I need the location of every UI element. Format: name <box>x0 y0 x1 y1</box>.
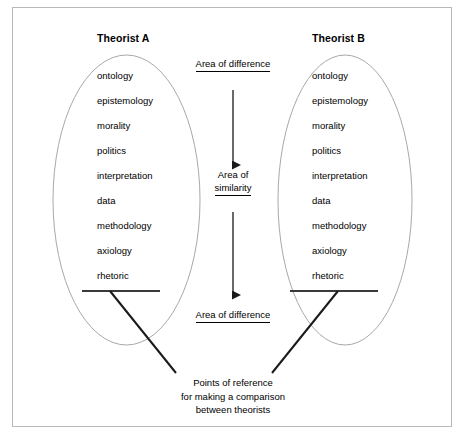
area-of-similarity-line1: Area of <box>193 168 273 181</box>
theorist-a-title: Theorist A <box>97 32 150 44</box>
concept-item: axiology <box>312 238 368 263</box>
concept-item: interpretation <box>312 163 368 188</box>
concept-item: politics <box>312 138 368 163</box>
concept-item: epistemology <box>312 88 368 113</box>
concept-item: rhetoric <box>97 263 153 288</box>
caption-line-3: between theorists <box>143 403 323 417</box>
area-of-difference-bottom-label: Area of difference <box>168 308 298 323</box>
concept-item: data <box>312 188 368 213</box>
area-of-similarity-label: Area of similarity <box>193 168 273 196</box>
concept-item: rhetoric <box>312 263 368 288</box>
points-of-reference-caption: Points of reference for making a compari… <box>143 376 323 417</box>
diagram-canvas: Theorist A Theorist B ontology epistemol… <box>0 0 466 439</box>
area-of-difference-top-text: Area of difference <box>196 57 271 72</box>
area-of-difference-bottom-text: Area of difference <box>196 308 271 323</box>
area-of-similarity-line2: similarity <box>215 181 252 196</box>
caption-line-2: for making a comparison <box>143 390 323 404</box>
concept-item: axiology <box>97 238 153 263</box>
theorist-a-concept-list: ontology epistemology morality politics … <box>97 63 153 288</box>
concept-item: methodology <box>312 213 368 238</box>
concept-item: politics <box>97 138 153 163</box>
caption-line-1: Points of reference <box>143 376 323 390</box>
concept-item: methodology <box>97 213 153 238</box>
concept-item: data <box>97 188 153 213</box>
concept-item: interpretation <box>97 163 153 188</box>
concept-item: morality <box>97 113 153 138</box>
concept-item: ontology <box>312 63 368 88</box>
concept-item: ontology <box>97 63 153 88</box>
concept-item: morality <box>312 113 368 138</box>
area-of-difference-top-label: Area of difference <box>168 57 298 72</box>
theorist-b-title: Theorist B <box>312 32 365 44</box>
theorist-b-concept-list: ontology epistemology morality politics … <box>312 63 368 288</box>
concept-item: epistemology <box>97 88 153 113</box>
